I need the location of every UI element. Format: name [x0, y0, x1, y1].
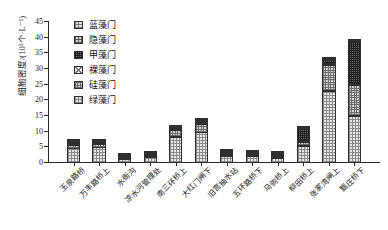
legend-item[interactable]: 硅藻门: [74, 77, 144, 92]
bar-segment: [322, 65, 335, 91]
legend-item[interactable]: 绿藻门: [74, 92, 144, 107]
bar-stack[interactable]: [322, 57, 335, 162]
y-tick-label: 40: [35, 32, 43, 41]
bar-segment: [169, 137, 182, 163]
bar-segment: [220, 156, 233, 163]
y-tick-mark: [44, 37, 48, 38]
legend-item[interactable]: 甲藻门: [74, 47, 144, 62]
legend-label: 甲藻门: [89, 48, 116, 61]
bar-stack[interactable]: [195, 118, 208, 162]
legend-label: 隐藻门: [89, 33, 116, 46]
bar-segment: [246, 156, 259, 163]
legend-label: 蓝藻门: [89, 18, 116, 31]
bar-stack[interactable]: [220, 149, 233, 162]
bar-stack[interactable]: [169, 125, 182, 162]
y-tick-mark: [44, 84, 48, 85]
legend-item[interactable]: 隐藻门: [74, 32, 144, 47]
y-tick-mark: [44, 115, 48, 116]
bar-segment: [92, 147, 105, 163]
bar-stack[interactable]: [246, 150, 259, 162]
legend-item[interactable]: 裸藻门: [74, 62, 144, 77]
y-tick-label: 25: [35, 79, 43, 88]
y-tick-mark: [44, 99, 48, 100]
y-tick-mark: [44, 21, 48, 22]
bar-stack[interactable]: [67, 139, 80, 162]
y-tick-label: 5: [39, 142, 43, 151]
bar-segment: [195, 132, 208, 162]
x-axis-label: 甄庄桥下: [337, 164, 367, 194]
legend-label: 硅藻门: [89, 78, 116, 91]
bar-segment: [118, 159, 131, 163]
bar-stack[interactable]: [92, 139, 105, 162]
bar-segment: [348, 85, 361, 116]
y-tick-label: 15: [35, 111, 43, 120]
legend-swatch: [74, 81, 83, 89]
y-tick-label: 30: [35, 64, 43, 73]
bar-segment: [67, 148, 80, 162]
y-tick-mark: [44, 162, 48, 163]
bar-chart: 细胞密度/(10⁵个·L⁻¹) 051015202530354045 蓝藻门隐藻…: [0, 0, 388, 230]
legend-swatch: [74, 51, 83, 59]
y-tick-mark: [44, 68, 48, 69]
y-axis-title: 细胞密度/(10⁵个·L⁻¹): [15, 0, 27, 131]
legend: 蓝藻门隐藻门甲藻门裸藻门硅藻门绿藻门: [74, 17, 144, 107]
x-axis-labels: 玉泉路桥万丰路桥上水衙沟凉水河管理处南三环桥上大红门闸下旧宫抽水站五环路桥下马驹…: [48, 164, 380, 230]
y-tick-mark: [44, 146, 48, 147]
y-tick-label: 10: [35, 126, 43, 135]
bar-segment: [271, 158, 284, 163]
bar-stack[interactable]: [271, 151, 284, 162]
bar-segment: [297, 146, 310, 163]
legend-swatch: [74, 66, 83, 74]
legend-label: 绿藻门: [89, 93, 116, 106]
bar-segment: [348, 116, 361, 163]
legend-swatch: [74, 96, 83, 104]
legend-item[interactable]: 蓝藻门: [74, 17, 144, 32]
bar-segment: [322, 91, 335, 163]
bar-segment: [348, 41, 361, 84]
y-tick-mark: [44, 131, 48, 132]
y-tick-label: 20: [35, 95, 43, 104]
bar-segment: [297, 129, 310, 142]
y-tick-label: 45: [35, 17, 43, 26]
y-tick-mark: [44, 52, 48, 53]
y-axis-line: [48, 21, 49, 163]
bar-stack[interactable]: [297, 126, 310, 162]
legend-swatch: [74, 21, 83, 29]
bar-segment: [144, 157, 157, 162]
bar-stack[interactable]: [144, 151, 157, 162]
legend-label: 裸藻门: [89, 63, 116, 76]
legend-swatch: [74, 36, 83, 44]
bar-stack[interactable]: [118, 153, 131, 162]
bar-stack[interactable]: [348, 39, 361, 162]
y-tick-label: 35: [35, 48, 43, 57]
y-tick-label: 0: [39, 158, 43, 167]
x-axis-label: 马驹桥上: [261, 164, 291, 194]
